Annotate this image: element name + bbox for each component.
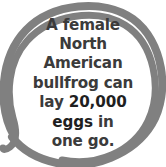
fact-text-block: A female North American bullfrog can lay… bbox=[0, 0, 166, 167]
fact-line-6: eggs in bbox=[52, 113, 113, 132]
fact-line-5: lay 20,000 bbox=[39, 93, 126, 112]
fact-line-3-text: American bbox=[43, 54, 122, 72]
fact-line-1-text: A female bbox=[46, 16, 120, 34]
fact-line-4: bullfrog can bbox=[33, 74, 133, 93]
fact-line-3: American bbox=[43, 54, 122, 73]
fact-line-7-text: one go. bbox=[52, 132, 115, 150]
egg-count-unit: eggs bbox=[52, 113, 93, 131]
fact-line-6-suffix: in bbox=[93, 113, 114, 131]
fact-line-7: one go. bbox=[52, 132, 115, 151]
fact-line-1: A female bbox=[46, 16, 120, 35]
fun-fact-card: A female North American bullfrog can lay… bbox=[0, 0, 166, 167]
fact-line-2-text: North bbox=[59, 35, 107, 53]
fact-line-4-text: bullfrog can bbox=[33, 74, 133, 92]
fact-line-2: North bbox=[59, 35, 107, 54]
egg-count-value: 20,000 bbox=[69, 93, 127, 111]
fact-line-5-prefix: lay bbox=[39, 93, 68, 111]
